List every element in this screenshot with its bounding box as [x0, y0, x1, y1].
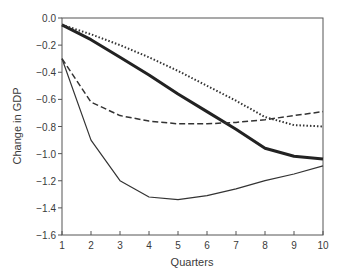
x-tick-label: 4 [146, 240, 152, 251]
y-tick-label: 0.0 [42, 13, 56, 24]
y-axis-label: Change in GDP [11, 87, 23, 164]
x-tick-label: 9 [291, 240, 297, 251]
x-tick-label: 2 [88, 240, 94, 251]
x-axis: 12345678910 [59, 231, 329, 251]
y-tick-label: −0.6 [36, 94, 56, 105]
series-thick-solid [62, 25, 323, 159]
y-tick-label: −0.2 [36, 40, 56, 51]
x-axis-label: Quarters [171, 256, 214, 268]
x-tick-label: 6 [204, 240, 210, 251]
plot-frame [62, 18, 323, 235]
series-lines [62, 25, 323, 200]
x-tick-label: 7 [233, 240, 239, 251]
y-tick-label: −1.2 [36, 176, 56, 187]
y-tick-label: −1.6 [36, 230, 56, 241]
x-tick-label: 10 [317, 240, 329, 251]
y-tick-label: −0.8 [36, 122, 56, 133]
x-tick-label: 5 [175, 240, 181, 251]
x-tick-label: 8 [262, 240, 268, 251]
y-tick-label: −0.4 [36, 67, 56, 78]
x-tick-label: 3 [117, 240, 123, 251]
series-thin-solid [62, 59, 323, 200]
series-dashed [62, 59, 323, 124]
y-tick-label: −1.0 [36, 149, 56, 160]
series-dotted [62, 25, 323, 127]
line-chart: 0.0−0.2−0.4−0.6−0.8−1.0−1.2−1.4−1.6 1234… [0, 0, 338, 276]
chart-svg: 0.0−0.2−0.4−0.6−0.8−1.0−1.2−1.4−1.6 1234… [0, 0, 338, 276]
x-tick-label: 1 [59, 240, 65, 251]
y-axis: 0.0−0.2−0.4−0.6−0.8−1.0−1.2−1.4−1.6 [36, 13, 62, 241]
y-tick-label: −1.4 [36, 203, 56, 214]
